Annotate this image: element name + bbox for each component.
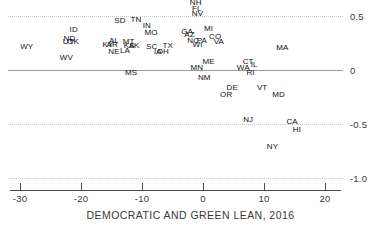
state-label-wi: WI bbox=[193, 41, 203, 49]
state-label-ok: OK bbox=[67, 38, 79, 46]
x-axis-tick-label: 10 bbox=[259, 193, 270, 204]
y-axis-tick-label: -1.0 bbox=[350, 173, 367, 184]
x-axis-tick-label: 0 bbox=[200, 193, 205, 204]
y-axis-tick-label: 0 bbox=[350, 65, 355, 76]
x-axis-tick-label: -20 bbox=[74, 193, 88, 204]
state-label-nm: NM bbox=[198, 74, 211, 82]
state-label-me: ME bbox=[202, 58, 214, 66]
state-label-ak: AK bbox=[129, 42, 140, 50]
state-label-vt: VT bbox=[257, 84, 267, 92]
state-label-ne: NE bbox=[108, 48, 119, 56]
x-axis-tick bbox=[203, 183, 204, 190]
x-axis-tick bbox=[142, 183, 143, 190]
state-label-wv: WV bbox=[60, 54, 73, 62]
state-label-oh: OH bbox=[157, 48, 169, 56]
scatter-plot: 0.50-0.5-1.0 NHFLNVSDTNINIDMOMIGAAZCONDU… bbox=[0, 0, 381, 233]
x-axis-tick bbox=[264, 183, 265, 190]
x-axis-tick-label: -10 bbox=[135, 193, 149, 204]
y-axis-tick-label: -0.5 bbox=[350, 119, 367, 130]
state-label-wy: WY bbox=[20, 43, 33, 51]
state-label-ny: NY bbox=[267, 143, 278, 151]
state-label-ma: MA bbox=[276, 44, 288, 52]
state-label-nv: NV bbox=[192, 10, 203, 18]
state-label-tn: TN bbox=[130, 16, 141, 24]
gridline bbox=[8, 178, 343, 179]
x-axis-tick-label: -30 bbox=[13, 193, 27, 204]
state-label-mo: MO bbox=[145, 29, 158, 37]
state-label-hi: HI bbox=[293, 126, 301, 134]
gridline bbox=[8, 16, 343, 17]
x-axis-title: DEMOCRATIC AND GREEN LEAN, 2016 bbox=[0, 209, 381, 221]
state-label-or: OR bbox=[220, 91, 232, 99]
x-axis-tick bbox=[20, 183, 21, 190]
y-axis-tick-label: 0.5 bbox=[350, 11, 364, 22]
state-label-la: LA bbox=[120, 47, 130, 55]
state-label-md: MD bbox=[272, 91, 285, 99]
x-axis-tick bbox=[81, 183, 82, 190]
state-label-nj: NJ bbox=[243, 116, 253, 124]
state-label-mn: MN bbox=[191, 64, 204, 72]
state-label-va: VA bbox=[214, 38, 224, 46]
state-label-ri: RI bbox=[246, 69, 254, 77]
zero-line bbox=[8, 70, 343, 71]
state-label-ms: MS bbox=[125, 69, 137, 77]
x-axis-tick bbox=[325, 183, 326, 190]
x-axis-line bbox=[10, 190, 341, 191]
x-axis-tick-label: 20 bbox=[320, 193, 331, 204]
state-label-sd: SD bbox=[114, 17, 125, 25]
state-label-id: ID bbox=[70, 26, 78, 34]
